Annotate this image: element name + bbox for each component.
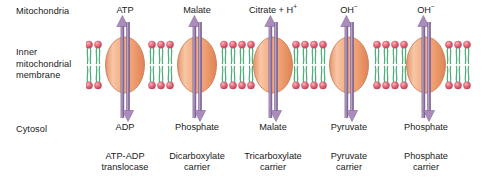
cytosol-substrate-label-phosphate-carrier: Phosphate: [378, 122, 474, 133]
matrix-substrate-text: ATP: [116, 5, 133, 15]
substrate-charge: +: [293, 3, 297, 10]
substrate-charge: −: [431, 3, 435, 10]
region-label-mitochondria: Mitochondria: [16, 6, 69, 18]
region-label-cytosol: Cytosol: [16, 124, 47, 136]
matrix-substrate-label-phosphate-carrier: OH−: [378, 5, 474, 16]
transporter-phosphate-carrier: OH− P: [378, 0, 474, 185]
matrix-substrate-text: Malate: [183, 5, 211, 15]
carrier-name-phosphate-carrier: Phosphate carrier: [378, 151, 474, 174]
transport-diagram: Mitochondria Inner mitochondrial membran…: [0, 0, 483, 185]
matrix-substrate-text: OH: [417, 5, 431, 15]
matrix-substrate-text: OH: [340, 5, 354, 15]
matrix-substrate-text: Citrate + H: [249, 5, 293, 15]
substrate-charge: −: [354, 3, 358, 10]
region-label-inner-mitochondrial-membrane: Inner mitochondrial membrane: [16, 47, 71, 82]
